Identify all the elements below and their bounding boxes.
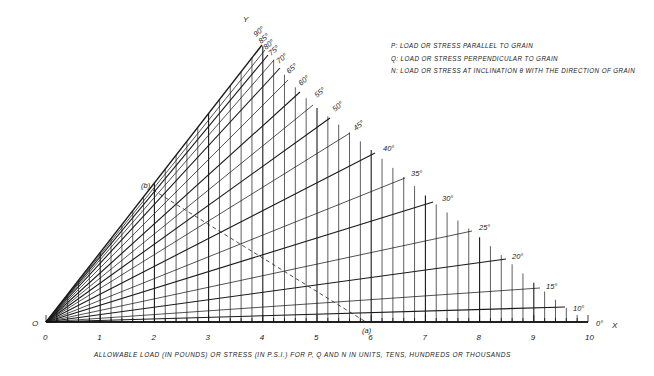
angle-label-35: 35° <box>411 169 422 178</box>
x-tick-label-3: 3 <box>206 333 211 342</box>
angle-line-30 <box>46 202 433 322</box>
angle-line-75 <box>46 60 274 322</box>
angle-label-60: 60° <box>297 73 311 87</box>
angle-label-50: 50° <box>331 99 345 113</box>
x-tick-label-8: 8 <box>477 333 482 342</box>
angle-label-55: 55° <box>313 85 327 99</box>
x-tick-label-5: 5 <box>314 333 319 342</box>
x-tick-label-0: 0 <box>43 333 48 342</box>
angle-label-20: 20° <box>511 252 523 261</box>
x-tick-label-10: 10 <box>585 333 594 342</box>
x-tick-label-4: 4 <box>260 333 265 342</box>
angle-label-45: 45° <box>352 118 366 132</box>
legend-p: P: LOAD OR STRESS PARALLEL TO GRAIN <box>391 42 533 49</box>
x-tick-label-9: 9 <box>531 333 536 342</box>
angle-line-40 <box>46 153 375 322</box>
x-axis-title: ALLOWABLE LOAD (IN POUNDS) OR STRESS (IN… <box>93 351 511 359</box>
angle-line-10 <box>46 307 565 322</box>
x-tick-label-1: 1 <box>97 333 101 342</box>
angle-label-10: 10° <box>573 304 584 313</box>
angle-label-30: 30° <box>442 194 453 203</box>
angle-line-85 <box>46 50 265 322</box>
x-tick-label-7: 7 <box>422 333 427 342</box>
x-tick-label-2: 2 <box>150 333 156 342</box>
angle-line-60 <box>46 92 300 322</box>
x-axis-name: X <box>611 321 618 330</box>
x-tick-labels: 012345678910 <box>43 333 594 342</box>
angle-line-55 <box>46 105 313 322</box>
angle-label-25: 25° <box>478 223 490 232</box>
angle-line-70 <box>46 68 280 322</box>
origin-label: O <box>32 319 38 328</box>
point-a-label: (a) <box>362 326 372 335</box>
grain-load-nomogram: 90°85°80°75°70°65°60°55°50°45°40°35°30°2… <box>0 0 654 376</box>
angle-line-15 <box>46 288 540 322</box>
y-axis-label: Y <box>243 15 249 24</box>
angle-label-65: 65° <box>285 61 299 75</box>
angle-line-35 <box>46 178 405 322</box>
angle-label-15: 15° <box>546 282 557 291</box>
legend-n: N: LOAD OR STRESS AT INCLINATION θ WITH … <box>391 67 635 74</box>
angle-label-40: 40° <box>383 144 394 153</box>
angle-line-20 <box>46 259 506 322</box>
angle-label-0: 0° <box>596 319 603 328</box>
point-b-label: (b) <box>141 181 151 190</box>
legend-q: Q: LOAD OR STRESS PERPENDICULAR TO GRAIN <box>391 55 558 63</box>
